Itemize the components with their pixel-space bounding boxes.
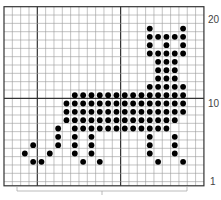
stitch-dot xyxy=(147,109,153,115)
stitch-dot xyxy=(155,109,161,115)
stitch-dot xyxy=(164,51,170,57)
stitch-dot xyxy=(130,117,136,123)
stitch-dot xyxy=(97,117,103,123)
stitch-dot xyxy=(147,142,153,148)
stitch-dot xyxy=(64,109,70,115)
stitch-dot xyxy=(22,151,28,157)
stitch-dot xyxy=(155,159,161,165)
stitch-dot xyxy=(147,92,153,98)
stitch-dot xyxy=(72,126,78,132)
stitch-dot xyxy=(105,92,111,98)
stitch-dot xyxy=(89,142,95,148)
stitch-dot xyxy=(147,51,153,57)
stitch-dot xyxy=(155,76,161,82)
stitch-dot xyxy=(97,101,103,107)
stitch-dot xyxy=(130,101,136,107)
stitch-dot xyxy=(89,101,95,107)
stitch-dot xyxy=(164,42,170,48)
stitch-dot xyxy=(180,51,186,57)
row-label-20: 20 xyxy=(208,15,219,25)
stitch-dot xyxy=(172,151,178,157)
stitch-dot xyxy=(147,84,153,90)
stitch-dot xyxy=(164,34,170,40)
stitch-dot xyxy=(180,34,186,40)
stitch-dot xyxy=(80,92,86,98)
stitch-dot xyxy=(105,117,111,123)
stitch-dot xyxy=(72,109,78,115)
stitch-dot xyxy=(89,117,95,123)
stitch-dot xyxy=(80,117,86,123)
stitch-dot xyxy=(114,109,120,115)
stitch-dot xyxy=(164,126,170,132)
stitch-dot xyxy=(72,142,78,148)
stitch-dot xyxy=(164,92,170,98)
stitch-dot xyxy=(139,92,145,98)
stitch-dot xyxy=(55,126,61,132)
stitch-dot xyxy=(72,101,78,107)
stitch-dot xyxy=(80,126,86,132)
stitch-dot xyxy=(147,126,153,132)
stitch-dot xyxy=(180,42,186,48)
stitch-dot xyxy=(172,92,178,98)
stitch-dot xyxy=(89,109,95,115)
row-label-10: 10 xyxy=(208,99,219,109)
stitch-dot xyxy=(147,117,153,123)
stitch-dot xyxy=(72,151,78,157)
width-caption xyxy=(60,193,150,200)
width-bracket xyxy=(17,187,187,191)
stitch-dot xyxy=(155,84,161,90)
stitch-dot xyxy=(164,59,170,65)
stitch-dot xyxy=(147,42,153,48)
stitch-dot xyxy=(122,109,128,115)
stitch-dot xyxy=(139,101,145,107)
stitch-dot xyxy=(122,101,128,107)
stitch-dot xyxy=(114,101,120,107)
stitch-dot xyxy=(164,84,170,90)
stitch-dot xyxy=(172,109,178,115)
stitch-dot xyxy=(155,34,161,40)
stitch-dot xyxy=(97,159,103,165)
stitch-dot xyxy=(155,51,161,57)
stitch-dot xyxy=(147,26,153,32)
stitch-dot xyxy=(147,34,153,40)
stitch-dot xyxy=(97,109,103,115)
row-label-1: 1 xyxy=(210,177,216,187)
stitch-dot xyxy=(39,159,45,165)
stitch-dot xyxy=(130,109,136,115)
stitch-dot xyxy=(164,67,170,73)
stitch-dot xyxy=(114,92,120,98)
stitch-dot xyxy=(164,117,170,123)
stitch-dot xyxy=(155,101,161,107)
stitch-dot xyxy=(114,126,120,132)
stitch-dot xyxy=(180,26,186,32)
stitch-dot xyxy=(155,92,161,98)
stitch-dot xyxy=(155,59,161,65)
stitch-dot xyxy=(164,109,170,115)
stitch-dot xyxy=(97,126,103,132)
stitch-dot xyxy=(105,101,111,107)
stitch-dot xyxy=(139,117,145,123)
stitch-dot xyxy=(172,142,178,148)
stitch-dot xyxy=(80,159,86,165)
stitch-dot xyxy=(114,117,120,123)
stitch-dot xyxy=(155,117,161,123)
stitch-dot xyxy=(172,67,178,73)
stitch-dot xyxy=(89,126,95,132)
stitch-dot xyxy=(72,117,78,123)
stitch-dot xyxy=(164,76,170,82)
stitch-dot xyxy=(97,92,103,98)
stitch-dot xyxy=(130,126,136,132)
stitch-dot xyxy=(172,34,178,40)
stitch-dot xyxy=(72,92,78,98)
stitch-dot xyxy=(55,142,61,148)
stitch-dot xyxy=(55,134,61,140)
stitch-dot xyxy=(105,126,111,132)
stitch-dot xyxy=(89,134,95,140)
stitch-dot xyxy=(172,76,178,82)
stitch-dot xyxy=(155,126,161,132)
stitch-dot xyxy=(122,126,128,132)
stitch-dot xyxy=(172,51,178,57)
stitch-dot xyxy=(64,117,70,123)
stitch-dot xyxy=(64,101,70,107)
stitch-chart xyxy=(0,0,221,200)
